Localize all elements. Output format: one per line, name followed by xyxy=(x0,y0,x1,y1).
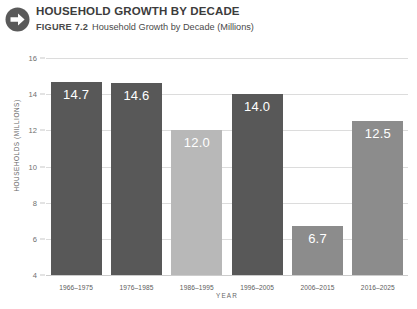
x-axis-tick-label: 2006–2015 xyxy=(287,284,347,291)
bar[interactable]: 14.7 xyxy=(51,82,102,275)
y-axis-title: HOUSEHOLDS (MILLIONS) xyxy=(13,76,20,216)
bar-value-label: 14.0 xyxy=(232,100,283,114)
y-axis-tick-mark xyxy=(40,94,45,95)
bar-value-label: 14.7 xyxy=(51,88,102,102)
bar-chart: HOUSEHOLDS (MILLIONS) 46810121416 14.719… xyxy=(0,46,417,309)
y-axis-tick-mark xyxy=(40,166,45,167)
y-axis-tick-mark xyxy=(40,202,45,203)
x-axis-title: YEAR xyxy=(46,292,408,299)
page-title: HOUSEHOLD GROWTH BY DECADE xyxy=(36,4,254,18)
y-axis-tick-label: 16 xyxy=(29,54,37,63)
y-axis-tick-label: 14 xyxy=(29,90,37,99)
y-axis-tick-mark xyxy=(40,130,45,131)
y-axis-tick-mark xyxy=(40,275,45,276)
y-axis-tick-mark xyxy=(40,238,45,239)
bar[interactable]: 14.0 xyxy=(232,94,283,275)
x-axis-tick-label: 2016–2025 xyxy=(348,284,408,291)
x-axis-tick-label: 1966–1975 xyxy=(46,284,106,291)
bar[interactable]: 6.7 xyxy=(292,226,343,275)
bar-series: 14.71966–197514.61976–198512.01986–19951… xyxy=(46,58,408,275)
y-axis-tick-mark xyxy=(40,58,45,59)
bar[interactable]: 12.0 xyxy=(171,130,222,275)
y-axis-tick-label: 8 xyxy=(33,198,37,207)
figure-caption-line: FIGURE 7.2Household Growth by Decade (Mi… xyxy=(36,21,254,33)
y-axis-tick-label: 10 xyxy=(29,162,37,171)
y-axis-tick-label: 4 xyxy=(33,271,37,280)
bar-value-label: 12.0 xyxy=(171,136,222,150)
x-axis-tick-label: 1986–1995 xyxy=(167,284,227,291)
bar-value-label: 12.5 xyxy=(352,127,403,141)
chart-header: HOUSEHOLD GROWTH BY DECADE FIGURE 7.2Hou… xyxy=(0,0,417,46)
bar-value-label: 6.7 xyxy=(292,232,343,246)
gridline xyxy=(46,275,408,276)
y-axis-tick-label: 6 xyxy=(33,234,37,243)
bar-value-label: 14.6 xyxy=(111,89,162,103)
figure-caption: Household Growth by Decade (Millions) xyxy=(92,22,254,32)
x-axis-tick-label: 1996–2005 xyxy=(227,284,287,291)
bar[interactable]: 14.6 xyxy=(111,83,162,275)
circle-arrow-right-icon xyxy=(5,7,30,32)
y-axis-tick-label: 12 xyxy=(29,126,37,135)
figure-label: FIGURE 7.2 xyxy=(36,22,88,32)
bar[interactable]: 12.5 xyxy=(352,121,403,275)
x-axis-tick-label: 1976–1985 xyxy=(106,284,166,291)
header-text-block: HOUSEHOLD GROWTH BY DECADE FIGURE 7.2Hou… xyxy=(36,4,254,33)
plot-area: 46810121416 14.71966–197514.61976–198512… xyxy=(46,58,408,275)
